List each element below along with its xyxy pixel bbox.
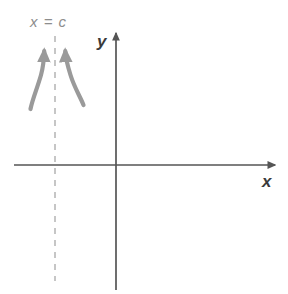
curve-right-branch <box>65 51 83 105</box>
figure-canvas: x = c y x <box>0 0 288 294</box>
asymptote-equation-label: x = c <box>29 13 67 30</box>
x-axis-label: x <box>261 172 273 191</box>
y-axis-label: y <box>96 32 108 51</box>
asymptote-diagram-svg: x = c y x <box>0 0 288 294</box>
curve-left-branch <box>31 51 45 109</box>
